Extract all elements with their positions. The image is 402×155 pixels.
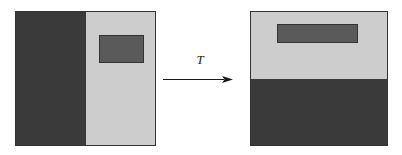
target-square	[250, 11, 388, 146]
target-sub-rectangle	[277, 24, 359, 43]
target-dark-region	[251, 79, 387, 146]
source-light-region	[86, 12, 156, 145]
source-square	[15, 11, 156, 146]
target-light-region	[251, 12, 387, 79]
source-sub-rectangle	[99, 35, 143, 63]
right-arrow-icon	[162, 71, 234, 88]
transformation-diagram: T	[0, 0, 402, 155]
transform-label: T	[188, 53, 212, 66]
source-dark-region	[16, 12, 86, 145]
